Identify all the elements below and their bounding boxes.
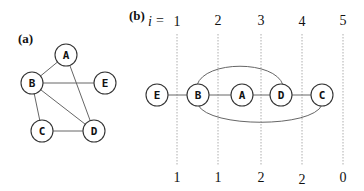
node-label: C	[39, 125, 46, 138]
panel-b-node-b: B	[187, 84, 209, 106]
panel-b-node-a: A	[231, 84, 253, 106]
edge-b-d-arc	[197, 66, 283, 85]
panel-a-node-d: D	[83, 120, 105, 142]
index-variable: i	[148, 14, 152, 29]
panel-b-label: (b)	[129, 8, 145, 23]
node-label: B	[195, 89, 202, 102]
top-index-5: 5	[340, 13, 347, 28]
graph-figure: (a) A B E C D (b) i = 1 2 3 4 5	[0, 0, 364, 191]
panel-b-node-c: C	[311, 84, 333, 106]
index-equals: =	[156, 13, 164, 28]
edge-b-c-arc	[198, 105, 322, 122]
node-label: D	[278, 89, 285, 102]
top-index-1: 1	[174, 14, 181, 29]
bottom-value-4: 2	[299, 172, 306, 187]
node-label: A	[63, 49, 70, 62]
bottom-value-3: 2	[258, 170, 265, 185]
bottom-value-5: 0	[340, 170, 347, 185]
panel-a-label: (a)	[18, 31, 33, 46]
panel-b-node-d: D	[270, 84, 292, 106]
bottom-value-2: 1	[215, 170, 222, 185]
panel-a-node-e: E	[94, 72, 116, 94]
node-label: B	[29, 77, 36, 90]
node-label: C	[319, 89, 326, 102]
panel-a-node-b: B	[21, 72, 43, 94]
node-label: D	[91, 125, 98, 138]
node-label: E	[102, 77, 109, 90]
panel-a-node-a: A	[55, 44, 77, 66]
panel-a-node-c: C	[31, 120, 53, 142]
top-index-2: 2	[215, 13, 222, 28]
bottom-value-1: 1	[174, 170, 181, 185]
top-index-4: 4	[299, 14, 306, 29]
node-label: E	[154, 89, 161, 102]
top-index-3: 3	[258, 13, 265, 28]
node-label: A	[239, 89, 246, 102]
panel-b-node-e: E	[146, 84, 168, 106]
